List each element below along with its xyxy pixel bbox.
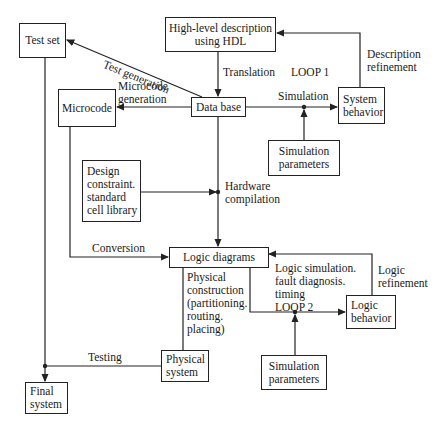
sim-params-1-line1: Simulation bbox=[279, 145, 329, 158]
system-behavior-line2: behavior bbox=[343, 106, 383, 119]
logic-refinement-line1: Logic bbox=[378, 264, 428, 277]
data-base-label: Data base bbox=[196, 101, 241, 114]
physical-construction-line4: routing. bbox=[187, 310, 247, 323]
design-constraint-box: Designconstraint.standardcell library bbox=[82, 160, 141, 222]
loop-2-label: LOOP 2 bbox=[275, 301, 356, 314]
logic-diagrams-box: Logic diagrams bbox=[169, 247, 269, 268]
physical-construction-line2: construction bbox=[187, 284, 247, 297]
microcode-generation-line2: generation bbox=[118, 93, 168, 106]
label-logic-simulation: Logic simulation.fault diagnosis.timingL… bbox=[275, 262, 356, 314]
logic-sim-line1: Logic simulation. bbox=[275, 262, 356, 275]
logic-behavior-line2: behavior bbox=[351, 312, 391, 325]
logic-sim-line2: fault diagnosis. bbox=[275, 275, 356, 288]
final-system-line2: system bbox=[30, 398, 62, 411]
design-constraint-line3: standard bbox=[87, 191, 137, 204]
high-level-line1: High-level description bbox=[169, 22, 272, 35]
microcode-generation-line1: Microcode bbox=[118, 80, 168, 93]
final-system-line1: Final bbox=[30, 385, 62, 398]
design-constraint-line1: Design bbox=[87, 165, 137, 178]
physical-system-line1: Physical bbox=[166, 353, 205, 366]
label-translation: Translation bbox=[223, 66, 275, 79]
final-system-box: Finalsystem bbox=[25, 382, 68, 414]
simulation-parameters-box-2: Simulationparameters bbox=[261, 355, 327, 390]
simulation-parameters-box-1: Simulationparameters bbox=[268, 140, 340, 176]
label-microcode-generation: Microcodegeneration bbox=[118, 80, 168, 106]
logic-behavior-line1: Logic bbox=[351, 299, 391, 312]
sim-params-2-line2: parameters bbox=[269, 373, 319, 386]
high-level-line2: using HDL bbox=[169, 35, 272, 48]
label-physical-construction: Physicalconstruction(partitioning.routin… bbox=[187, 271, 247, 336]
test-set-box: Test set bbox=[19, 23, 66, 58]
sim-params-2-line1: Simulation bbox=[269, 360, 319, 373]
data-base-box: Data base bbox=[191, 97, 246, 117]
label-loop-1: LOOP 1 bbox=[291, 66, 329, 79]
physical-construction-line1: Physical bbox=[187, 271, 247, 284]
description-refinement-line1: Description bbox=[367, 48, 421, 61]
description-refinement-line2: refinement bbox=[367, 61, 421, 74]
label-hardware-compilation: Hardwarecompilation bbox=[225, 180, 280, 206]
hardware-compilation-line1: Hardware bbox=[225, 180, 280, 193]
hardware-compilation-line2: compilation bbox=[225, 193, 280, 206]
design-constraint-line4: cell library bbox=[87, 204, 137, 217]
physical-system-box: Physicalsystem bbox=[161, 350, 209, 382]
logic-refinement-line2: refinement bbox=[378, 277, 428, 290]
physical-system-line2: system bbox=[166, 366, 205, 379]
microcode-box: Microcode bbox=[58, 89, 116, 127]
system-behavior-line1: System bbox=[343, 93, 383, 106]
physical-construction-line5: placing) bbox=[187, 323, 247, 336]
logic-sim-line3: timing bbox=[275, 288, 356, 301]
system-behavior-box: Systembehavior bbox=[338, 87, 385, 124]
microcode-label: Microcode bbox=[62, 102, 112, 115]
physical-construction-line3: (partitioning. bbox=[187, 297, 247, 310]
high-level-description-box: High-level descriptionusing HDL bbox=[165, 17, 276, 52]
label-description-refinement: Descriptionrefinement bbox=[367, 48, 421, 74]
logic-diagrams-label: Logic diagrams bbox=[183, 251, 255, 264]
label-logic-refinement: Logicrefinement bbox=[378, 264, 428, 290]
design-constraint-line2: constraint. bbox=[87, 178, 137, 191]
sim-params-1-line2: parameters bbox=[279, 158, 329, 171]
label-conversion: Conversion bbox=[92, 242, 145, 255]
test-set-label: Test set bbox=[25, 34, 60, 47]
label-testing: Testing bbox=[88, 351, 122, 364]
label-simulation: Simulation bbox=[278, 90, 328, 103]
